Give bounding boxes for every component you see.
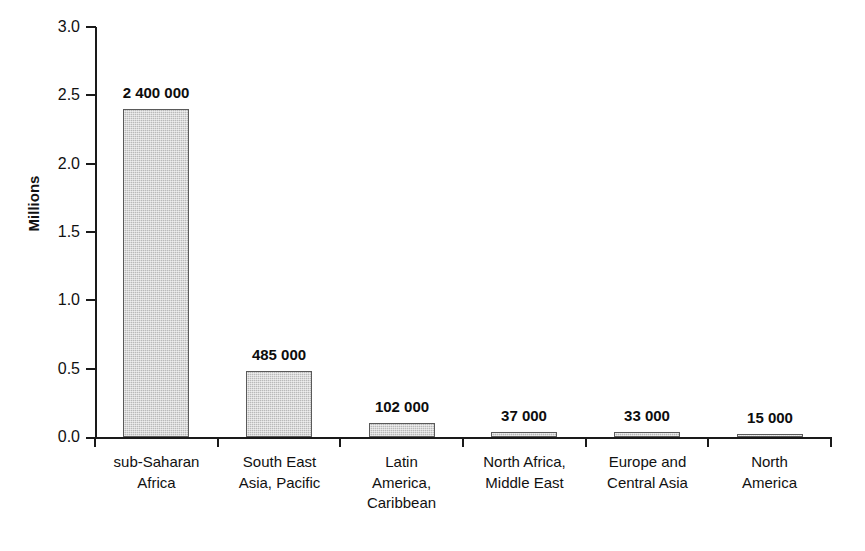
- x-axis-tick: [94, 437, 96, 447]
- x-axis-category-label-line: America,: [340, 473, 463, 494]
- y-axis-tick-label: 1.0: [30, 292, 80, 308]
- x-axis-category-label-line: Europe and: [586, 452, 709, 473]
- x-axis-category-label-line: Central Asia: [586, 473, 709, 494]
- x-axis-tick: [830, 437, 832, 447]
- x-axis-category-label-line: America: [708, 473, 831, 494]
- bar-chart: Millions 3.02.52.01.51.00.50.0 2 400 000…: [0, 0, 865, 551]
- x-axis-category-label-line: Asia, Pacific: [218, 473, 341, 494]
- bar-value-label: 2 400 000: [76, 85, 236, 100]
- y-axis-tick: [86, 231, 96, 233]
- bar: [491, 432, 557, 437]
- bar-value-label: 485 000: [199, 347, 359, 362]
- bar: [737, 434, 803, 437]
- x-axis-tick: [462, 437, 464, 447]
- x-axis-tick: [585, 437, 587, 447]
- x-axis-category-label: LatinAmerica,Caribbean: [340, 452, 463, 514]
- bar: [369, 423, 435, 437]
- y-axis-tick: [86, 163, 96, 165]
- x-axis-category-label-line: North Africa,: [463, 452, 586, 473]
- x-axis-category-label-line: Middle East: [463, 473, 586, 494]
- x-axis-category-label-line: Latin: [340, 452, 463, 473]
- y-axis-tick: [86, 26, 96, 28]
- x-axis-category-label: North Africa,Middle East: [463, 452, 586, 493]
- x-axis-category-label-line: South East: [218, 452, 341, 473]
- y-axis-tick: [86, 299, 96, 301]
- y-axis-tick-label: 0.0: [30, 429, 80, 445]
- x-axis-tick: [339, 437, 341, 447]
- y-axis-tick-label: 0.5: [30, 361, 80, 377]
- bar: [246, 371, 312, 437]
- x-axis-tick: [217, 437, 219, 447]
- x-axis-category-label: sub-SaharanAfrica: [95, 452, 218, 493]
- y-axis-tick-label: 2.0: [30, 156, 80, 172]
- x-axis-category-label: South EastAsia, Pacific: [218, 452, 341, 493]
- y-axis-tick: [86, 368, 96, 370]
- x-axis-category-label: NorthAmerica: [708, 452, 831, 493]
- y-axis-tick-label: 3.0: [30, 19, 80, 35]
- y-axis-tick-label: 1.5: [30, 224, 80, 240]
- x-axis-category-label: Europe andCentral Asia: [586, 452, 709, 493]
- x-axis-category-label-line: Africa: [95, 473, 218, 494]
- y-axis-tick-label: 2.5: [30, 87, 80, 103]
- x-axis-category-label-line: Caribbean: [340, 493, 463, 514]
- bar: [614, 432, 680, 437]
- x-axis-tick: [707, 437, 709, 447]
- bar: [123, 109, 189, 437]
- bar-value-label: 15 000: [690, 410, 850, 425]
- x-axis-category-label-line: North: [708, 452, 831, 473]
- x-axis-category-label-line: sub-Saharan: [95, 452, 218, 473]
